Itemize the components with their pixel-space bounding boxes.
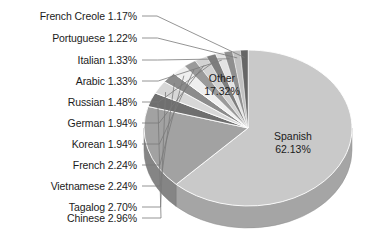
callout-label-french-creole: French Creole 1.17% [0, 10, 137, 22]
callout-label-vietnamese: Vietnamese 2.24% [0, 180, 137, 192]
pie-chart-figure: Other 17.32% Spanish 62.13% French Creol… [0, 0, 367, 252]
slice-label-spanish-value: 62.13% [258, 143, 328, 156]
slice-label-spanish: Spanish 62.13% [258, 130, 328, 156]
callout-label-german: German 1.94% [0, 117, 137, 129]
callout-label-chinese: Chinese 2.96% [0, 212, 137, 224]
callout-label-russian: Russian 1.48% [0, 96, 137, 108]
slice-label-other-value: 17.32% [188, 85, 256, 98]
callout-label-french: French 2.24% [0, 159, 137, 171]
callout-label-portuguese: Portuguese 1.22% [0, 32, 137, 44]
callout-label-korean: Korean 1.94% [0, 138, 137, 150]
callout-label-italian: Italian 1.33% [0, 54, 137, 66]
slice-label-spanish-name: Spanish [258, 130, 328, 143]
callout-label-arabic: Arabic 1.33% [0, 75, 137, 87]
slice-label-other-name: Other [188, 72, 256, 85]
slice-label-other: Other 17.32% [188, 72, 256, 98]
